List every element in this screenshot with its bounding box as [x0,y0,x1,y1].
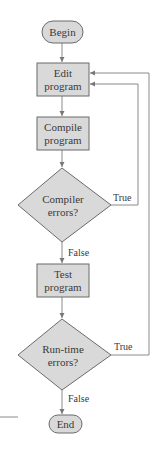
edge-label-compiler-false: False [68,247,90,258]
node-end: End [49,415,82,433]
node-runtime-errors-line1: Run-time [42,343,84,355]
node-edit-line2: program [44,80,82,92]
node-compiler-errors: Compiler errors? [18,168,111,242]
node-test-line1: Test [54,268,72,280]
edge-label-runtime-false: False [68,393,90,404]
node-compiler-errors-line2: errors? [48,206,79,218]
node-runtime-errors-line2: errors? [48,356,79,368]
node-compiler-errors-line1: Compiler [42,193,84,205]
node-edit-program: Edit program [37,63,89,96]
node-end-label: End [57,418,75,430]
node-test-line2: program [44,281,82,293]
edge-label-compiler-true: True [113,192,132,203]
node-edit-line1: Edit [54,67,72,79]
node-begin: Begin [42,21,83,43]
flowchart: Begin Edit program Compile program Compi… [0,0,157,451]
node-runtime-errors: Run-time errors? [18,319,111,390]
node-begin-label: Begin [49,26,76,38]
node-compile-line2: program [44,134,82,146]
edge-compiler-errors-true-to-edit [90,84,138,205]
node-test-program: Test program [37,264,89,297]
node-compile-line1: Compile [44,121,82,133]
edge-label-runtime-true: True [114,341,133,352]
node-compile-program: Compile program [37,117,89,150]
